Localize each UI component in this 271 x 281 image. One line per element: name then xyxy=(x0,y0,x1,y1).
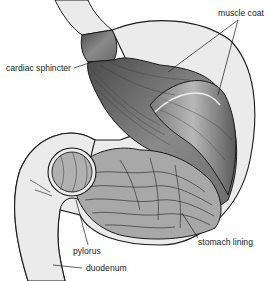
stomach-diagram: muscle coat cardiac sphincter pylorus st… xyxy=(0,0,271,281)
cardiac-sphincter-shape xyxy=(81,30,117,62)
label-duodenum: duodenum xyxy=(86,263,127,273)
esophagus xyxy=(55,0,112,35)
label-stomach-lining: stomach lining xyxy=(198,237,253,247)
label-muscle-coat: muscle coat xyxy=(218,8,264,18)
label-cardiac-sphincter: cardiac sphincter xyxy=(6,63,71,73)
label-pylorus: pylorus xyxy=(73,246,101,256)
